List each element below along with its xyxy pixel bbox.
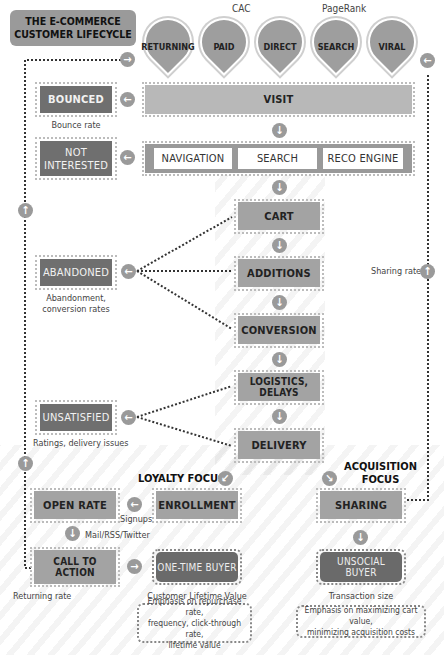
unsatisfied-box: UNSATISFIED: [40, 404, 112, 431]
title-line-2: CUSTOMER LIFECYCLE: [14, 28, 132, 41]
one-time-buyer-box: ONE-TIME BUYER: [156, 552, 238, 582]
arrow-left-icon: ←: [127, 497, 142, 512]
abandoned-box: ABANDONED: [40, 259, 112, 286]
abandonment-metric-line2: conversion rates: [35, 304, 117, 314]
arrow-down-icon: ↓: [272, 238, 287, 253]
abandonment-metric-line1: Abandonment,: [35, 293, 117, 303]
visit-box: VISIT: [145, 85, 412, 114]
navigation-box: NAVIGATION: [154, 148, 232, 169]
bounced-box: BOUNCED: [40, 86, 112, 113]
acquisition-heading-line2: FOCUS: [344, 473, 417, 486]
logistics-box: LOGISTICS, DELAYS: [238, 373, 320, 401]
arrow-right-icon: →: [120, 52, 135, 67]
loyalty-emphasis-note: Emphasis on repurchase rate, frequency, …: [137, 603, 252, 643]
channel-search-label: SEARCH: [306, 42, 366, 52]
diagram-title: THE E-COMMERCE CUSTOMER LIFECYCLE: [10, 10, 136, 46]
arrow-left-icon: ←: [121, 410, 136, 425]
sharing-rate-label: Sharing rate: [371, 266, 421, 276]
title-line-1: THE E-COMMERCE: [25, 15, 120, 28]
not-interested-line2: INTERESTED: [44, 159, 108, 172]
conversion-box: CONVERSION: [238, 316, 320, 344]
open-rate-box: OPEN RATE: [34, 491, 116, 519]
arrow-left-icon: ←: [121, 264, 136, 279]
cart-box: CART: [238, 202, 320, 230]
arrow-down-right-icon: ↘: [322, 471, 337, 486]
unsocial-buyer-box: UNSOCIAL BUYER: [320, 552, 402, 582]
arrow-down-icon: ↓: [272, 409, 287, 424]
unsatisfied-metric: Ratings, delivery issues: [33, 438, 129, 448]
channel-viral-label: VIRAL: [362, 42, 422, 52]
arrow-right-icon: →: [127, 559, 142, 574]
reco-engine-box: RECO ENGINE: [323, 148, 403, 169]
delivery-box: DELIVERY: [238, 431, 320, 459]
arrow-left-icon: ←: [120, 92, 135, 107]
signups-label: Signups: [120, 514, 152, 524]
call-to-action-box: CALL TO ACTION: [34, 550, 116, 584]
loyalty-emphasis-line2: frequency, click-through rate,: [139, 618, 250, 640]
arrow-left-icon: ←: [420, 53, 435, 68]
additions-box: ADDITIONS: [238, 259, 320, 287]
bounce-rate-label: Bounce rate: [40, 120, 112, 130]
returning-rate-label: Returning rate: [13, 591, 71, 601]
arrow-down-icon: ↓: [65, 526, 80, 541]
acquisition-emphasis-note: Emphasis on maximizing cart value, minim…: [296, 605, 426, 638]
arrow-down-icon: ↓: [272, 295, 287, 310]
arrow-up-icon: ↑: [18, 203, 33, 218]
transaction-size-label: Transaction size: [316, 591, 406, 601]
cac-label: CAC: [232, 3, 251, 14]
loyalty-emphasis-line3: lifetime value: [168, 640, 220, 651]
acquisition-emphasis-line2: minimizing acquisition costs: [307, 627, 415, 638]
loyalty-focus-heading: LOYALTY FOCUS: [138, 472, 225, 485]
arrow-down-icon: ↓: [272, 180, 287, 195]
acquisition-emphasis-line1: Emphasis on maximizing cart value,: [298, 605, 424, 627]
acquisition-focus-heading: ACQUISITION FOCUS: [344, 460, 417, 486]
not-interested-box: NOT INTERESTED: [40, 141, 112, 176]
arrow-down-icon: ↓: [272, 123, 287, 138]
acquisition-heading-line1: ACQUISITION: [344, 460, 417, 473]
loyalty-emphasis-line1: Emphasis on repurchase rate,: [139, 596, 250, 618]
mail-rss-twitter-label: Mail/RSS/Twitter: [85, 530, 150, 540]
arrow-down-icon: ↓: [353, 530, 368, 545]
arrow-up-icon: ↑: [420, 264, 435, 279]
channel-returning-label: RETURNING: [138, 42, 198, 52]
channel-direct-label: DIRECT: [250, 42, 310, 52]
search-box: SEARCH: [238, 148, 317, 169]
arrow-up-icon: ↑: [18, 456, 33, 471]
arrow-down-left-icon: ↙: [218, 471, 233, 486]
sharing-box: SHARING: [320, 491, 402, 519]
enrollment-box: ENROLLMENT: [156, 491, 238, 519]
not-interested-line1: NOT: [65, 146, 87, 159]
pagerank-label: PageRank: [322, 3, 366, 14]
channel-paid-label: PAID: [194, 42, 254, 52]
arrow-left-icon: ←: [120, 150, 135, 165]
arrow-down-icon: ↓: [272, 352, 287, 367]
